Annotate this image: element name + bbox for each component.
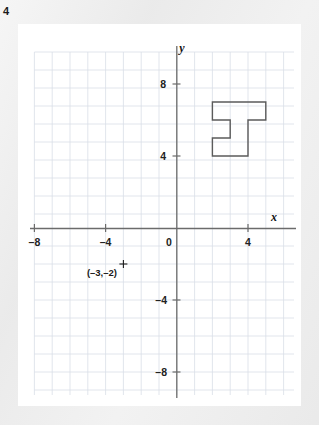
point-marker-plus bbox=[119, 260, 127, 268]
x-axis-label: x bbox=[270, 210, 277, 224]
point-coordinate-label: (–3,–2) bbox=[87, 267, 117, 278]
y-tick-label--4: –4 bbox=[155, 294, 167, 306]
x-tick-label-0: 0 bbox=[166, 236, 172, 248]
coordinate-plane: –8 –4 0 4 8 4 –4 –8 x y (–3,–2) bbox=[0, 0, 319, 425]
y-tick-label--8: –8 bbox=[155, 366, 167, 378]
x-tick-label--8: –8 bbox=[29, 236, 41, 248]
y-tick-label-4: 4 bbox=[160, 150, 166, 162]
grid-lines bbox=[34, 52, 294, 395]
graph-svg: –8 –4 0 4 8 4 –4 –8 x y (–3,–2) bbox=[0, 0, 319, 425]
y-tick-label-8: 8 bbox=[160, 78, 166, 90]
x-tick-label--4: –4 bbox=[100, 236, 112, 248]
rotated-t-polygon bbox=[212, 102, 265, 156]
y-axis-label: y bbox=[177, 41, 185, 55]
x-tick-label-4: 4 bbox=[245, 236, 251, 248]
